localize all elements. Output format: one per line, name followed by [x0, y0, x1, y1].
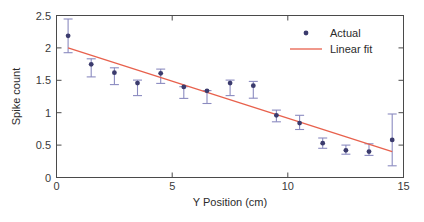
y-tick-label-5: 2.5	[36, 10, 51, 22]
x-tick-label-2: 10	[282, 180, 294, 192]
data-point	[367, 149, 372, 154]
data-point	[205, 88, 210, 93]
chart-figure: 0 0.5 1 1.5 2 2.5 0 5 10 15 Y Position (…	[0, 0, 424, 222]
errorbar	[87, 59, 96, 77]
y-tick-label-2: 1	[45, 107, 51, 119]
axes-frame	[57, 16, 404, 178]
y-tick-label-1: 0.5	[36, 139, 51, 151]
x-tick-label-0: 0	[53, 180, 59, 192]
data-point	[135, 81, 140, 86]
y-axis-title: Spike count	[10, 68, 22, 125]
x-tick-label-3: 15	[397, 180, 409, 192]
data-point	[112, 70, 117, 75]
y-tick-label-0: 0	[45, 172, 51, 184]
legend-label-actual: Actual	[330, 27, 361, 39]
errorbars-group	[64, 19, 397, 166]
x-axis-tick-labels: 0 5 10 15	[53, 180, 409, 192]
data-point	[66, 33, 71, 38]
x-tick-label-1: 5	[169, 180, 175, 192]
axis-ticks	[57, 16, 404, 178]
data-point	[297, 121, 302, 126]
data-point	[251, 83, 256, 88]
data-point	[158, 71, 163, 76]
scatter-plot-svg: 0 0.5 1 1.5 2 2.5 0 5 10 15 Y Position (…	[0, 0, 424, 222]
y-tick-label-3: 1.5	[36, 74, 51, 86]
legend: Actual Linear fit	[290, 27, 372, 55]
data-point	[344, 148, 349, 153]
data-point	[320, 141, 325, 146]
legend-entry-actual: Actual	[304, 27, 361, 39]
data-point	[181, 85, 186, 90]
data-point	[228, 81, 233, 86]
legend-entry-linear-fit: Linear fit	[290, 43, 372, 55]
legend-marker-dot	[304, 31, 309, 36]
x-axis-title: Y Position (cm)	[193, 196, 267, 208]
data-point	[89, 62, 94, 67]
y-tick-label-4: 2	[45, 42, 51, 54]
legend-label-linear-fit: Linear fit	[330, 43, 372, 55]
data-point	[390, 138, 395, 143]
data-point	[274, 113, 279, 118]
y-axis-tick-labels: 0 0.5 1 1.5 2 2.5	[36, 10, 51, 184]
linear-fit-line	[68, 48, 392, 152]
